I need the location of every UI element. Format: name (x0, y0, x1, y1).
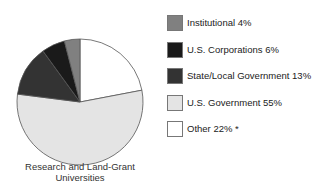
legend-swatch (167, 42, 183, 58)
legend-item: U.S. Corporations 6% (167, 42, 311, 69)
legend-label: Institutional 4% (187, 15, 251, 31)
legend-swatch (167, 95, 183, 111)
legend-item: U.S. Government 55% (167, 95, 311, 122)
chart-caption: Research and Land-Grant Universities (10, 161, 150, 183)
legend-label: U.S. Corporations 6% (187, 42, 279, 58)
pie-chart (0, 0, 170, 170)
caption-line-1: Research and Land-Grant (10, 161, 150, 172)
legend-label: Other 22% * (187, 121, 239, 137)
legend-item: Institutional 4% (167, 15, 311, 42)
legend-item: Other 22% * (167, 121, 311, 148)
legend-swatch (167, 15, 183, 31)
legend-swatch (167, 68, 183, 84)
legend-swatch (167, 121, 183, 137)
legend-item: State/Local Government 13% (167, 68, 311, 95)
legend: Institutional 4% U.S. Corporations 6% St… (167, 15, 311, 148)
legend-label: U.S. Government 55% (187, 95, 282, 111)
legend-label: State/Local Government 13% (187, 68, 311, 84)
caption-line-2: Universities (10, 172, 150, 183)
